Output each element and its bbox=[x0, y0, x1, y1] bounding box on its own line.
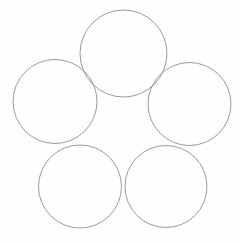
five-circle-rosette-figure: Five overlapping circles arranged in a r… bbox=[0, 0, 241, 242]
figure-canvas: Five overlapping circles arranged in a r… bbox=[0, 0, 241, 242]
figure-background bbox=[0, 0, 241, 242]
